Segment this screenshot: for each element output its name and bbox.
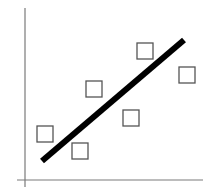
square-marker-icon	[137, 43, 153, 59]
scatter-chart	[0, 0, 215, 188]
square-marker-icon	[123, 110, 139, 126]
square-marker-icon	[72, 143, 88, 159]
trend-line	[42, 40, 184, 161]
square-marker-icon	[37, 126, 53, 142]
square-marker-icon	[179, 67, 195, 83]
square-marker-icon	[86, 81, 102, 97]
